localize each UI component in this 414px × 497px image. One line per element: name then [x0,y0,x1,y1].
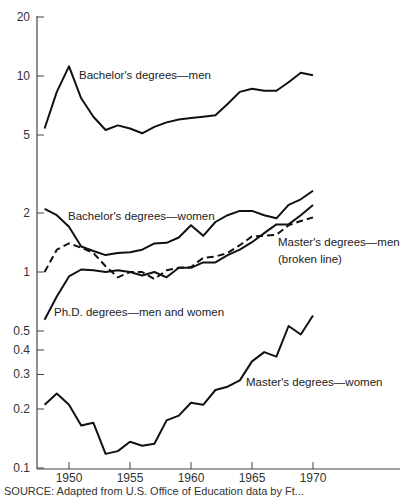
x-tick-label: 1960 [171,472,211,484]
y-tick-label: 0.4 [4,344,30,356]
series-label: Bachelor's degrees—women [68,211,215,223]
x-tick-label: 1970 [293,472,333,484]
y-tick-label: 0.3 [4,368,30,380]
x-tick-label: 1950 [49,472,89,484]
series-label: Master's degrees—men [278,237,400,249]
x-tick-label: 1955 [110,472,150,484]
series-line [45,191,313,255]
source-caption: SOURCE: Adapted from U.S. Office of Educ… [4,485,304,497]
x-tick-label: 1965 [232,472,272,484]
series-label: (broken line) [278,254,342,266]
y-tick-label: 0.5 [4,325,30,337]
series-label: Bachelor's degrees—men [79,70,211,82]
y-tick-label: 0.2 [4,403,30,415]
y-tick-label: 2 [4,207,30,219]
y-tick-label: 10 [4,70,30,82]
series-label: Ph.D. degrees—men and women [54,307,224,319]
y-tick-label: 20 [4,11,30,23]
series-label: Master's degrees—women [246,377,382,389]
y-tick-label: 0.1 [4,462,30,474]
y-tick-label: 5 [4,129,30,141]
y-tick-label: 1 [4,266,30,278]
